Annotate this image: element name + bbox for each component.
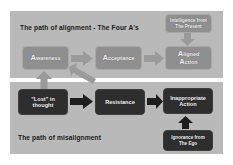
node-acceptance[interactable]: Acceptance	[95, 46, 142, 70]
awareness-rest: wareness	[36, 55, 61, 61]
arrow-lost-to-awareness-icon	[36, 71, 52, 89]
node-intelligence-from-the-present[interactable]: Intelligence from The Present	[165, 14, 212, 33]
inappropriate-line-1: Inappropriate	[170, 95, 206, 101]
ignorance-line-2: The Ego	[179, 141, 197, 146]
diagram-canvas: The path of alignment - The Four A's Int…	[0, 0, 233, 165]
node-ignorance-from-the-ego[interactable]: Ignorance from The Ego	[163, 130, 213, 151]
arrow-acceptance-to-aligned-action-icon	[144, 51, 164, 66]
ignorance-line-1: Ignorance from	[171, 135, 204, 140]
lost-line-2: thought	[33, 102, 54, 108]
arrow-lost-to-resistance-icon	[70, 94, 93, 109]
intelligence-line-2: The Present	[175, 24, 201, 29]
lost-line-1: "Lost" in	[31, 96, 55, 102]
arrow-resistance-to-awareness-icon	[69, 63, 97, 85]
inappropriate-line-2: Action	[179, 101, 196, 107]
node-aligned-action[interactable]: Aligned Action	[165, 46, 212, 70]
arrow-ignorance-to-inappropriate-action-icon	[178, 116, 193, 129]
arrow-intelligence-to-aligned-action-icon	[180, 33, 195, 46]
node-inappropriate-action[interactable]: Inappropriate Action	[163, 88, 213, 114]
acceptance-rest: cceptance	[108, 55, 134, 61]
arrow-resistance-to-inappropriate-action-icon	[147, 94, 163, 109]
misalignment-caption: The path of misalignment	[18, 134, 101, 141]
resistance-line-1: Resistance	[105, 99, 135, 105]
node-resistance[interactable]: Resistance	[95, 89, 145, 115]
node-lost-in-thought[interactable]: "Lost" in thought	[18, 89, 68, 115]
intelligence-line-1: Intelligence from	[170, 18, 207, 23]
node-awareness[interactable]: Awareness	[22, 46, 69, 70]
action-rest: ction	[185, 59, 198, 65]
aligned-rest: ligned	[183, 51, 199, 57]
alignment-caption: The path of alignment - The Four A's	[20, 24, 139, 31]
